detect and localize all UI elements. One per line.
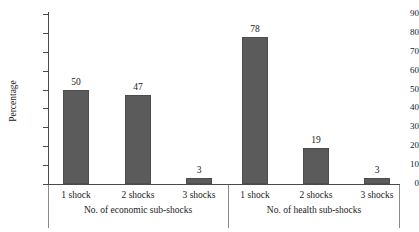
bar-value-label: 50 (56, 77, 96, 87)
x-category-label: 1 shock (225, 190, 285, 201)
y-tick-mark (43, 71, 48, 72)
x-category-label: 3 shocks (169, 190, 229, 201)
y-tick-label: 70 (379, 47, 419, 56)
x-category-label: 1 shock (46, 190, 106, 201)
bar-value-label: 47 (118, 82, 158, 92)
bar-value-label: 3 (357, 165, 397, 175)
y-axis-title: Percentage (8, 66, 18, 136)
y-tick-label: 50 (379, 85, 419, 94)
bar (125, 95, 151, 184)
y-tick-label: 40 (379, 103, 419, 112)
y-tick-label: 20 (379, 141, 419, 150)
y-tick-label: 60 (379, 66, 419, 75)
y-tick-label: 80 (379, 28, 419, 37)
y-tick-mark (43, 108, 48, 109)
bar (186, 178, 212, 184)
y-tick-mark (43, 90, 48, 91)
bar (63, 90, 89, 184)
bar-value-label: 3 (179, 165, 219, 175)
bar (364, 178, 390, 184)
y-tick-mark (43, 127, 48, 128)
y-axis-line (48, 12, 49, 184)
y-tick-mark (43, 165, 48, 166)
x-category-label: 3 shocks (347, 190, 407, 201)
x-axis-baseline (48, 184, 400, 185)
y-tick-mark (43, 33, 48, 34)
bar-value-label: 19 (296, 135, 336, 145)
x-group-label: No. of health sub-shocks (224, 205, 404, 216)
x-category-label: 2 shocks (286, 190, 346, 201)
x-category-label: 2 shocks (108, 190, 168, 201)
y-tick-mark (43, 184, 48, 185)
y-tick-mark (43, 52, 48, 53)
bar-value-label: 78 (235, 24, 275, 34)
y-tick-mark (43, 146, 48, 147)
bar (242, 37, 268, 184)
y-tick-mark (43, 14, 48, 15)
bar (303, 148, 329, 184)
bar-chart: Percentage 0102030405060708090 504737819… (0, 0, 419, 232)
y-tick-label: 30 (379, 122, 419, 131)
x-group-label: No. of economic sub-shocks (48, 205, 228, 216)
y-tick-label: 90 (379, 9, 419, 18)
